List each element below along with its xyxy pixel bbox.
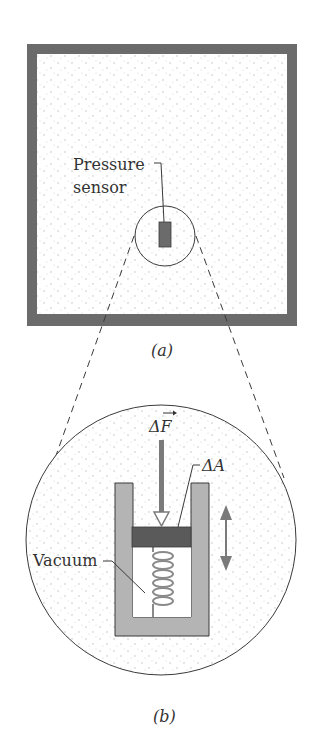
pressure-sensor-diagram: Pressure sensor (a) [0,0,322,740]
sensor-label-line2: sensor [73,178,127,197]
vacuum-chamber [133,547,191,617]
area-label: ΔA [201,456,225,475]
panel-a: Pressure sensor (a) [27,44,297,360]
force-label: ΔF [148,417,173,436]
panel-b: ΔF ΔA Vacuum (b) [26,405,296,726]
sensor-label-line1: Pressure [73,155,145,174]
pressure-sensor [159,222,171,247]
piston [132,527,191,547]
vacuum-label: Vacuum [32,551,97,570]
caption-a: (a) [151,341,173,360]
caption-b: (b) [153,707,176,726]
